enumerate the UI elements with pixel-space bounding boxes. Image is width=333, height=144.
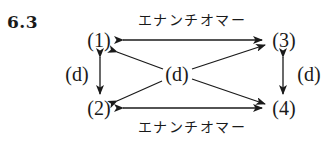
top-relation-label: エナンチオマー xyxy=(138,12,247,28)
center-relation-label: (d) xyxy=(165,62,188,86)
compound-node-1: (1) xyxy=(87,28,110,52)
left-relation-label: (d) xyxy=(65,62,88,86)
stereoisomer-relationship-diagram: 6.3 エナンチオマー エナンチオマー (1) (2) (3) (4) (d) … xyxy=(0,0,333,144)
arrow-2-3-upper xyxy=(192,45,265,69)
compound-node-4: (4) xyxy=(272,96,295,120)
bottom-relation-label: エナンチオマー xyxy=(138,119,247,135)
compound-node-2: (2) xyxy=(87,96,110,120)
arrow-1-4-lower xyxy=(192,79,265,104)
right-relation-label: (d) xyxy=(297,62,320,86)
arrow-2-3-lower xyxy=(117,81,162,101)
compound-node-3: (3) xyxy=(272,28,295,52)
arrow-1-4-upper xyxy=(117,52,163,69)
